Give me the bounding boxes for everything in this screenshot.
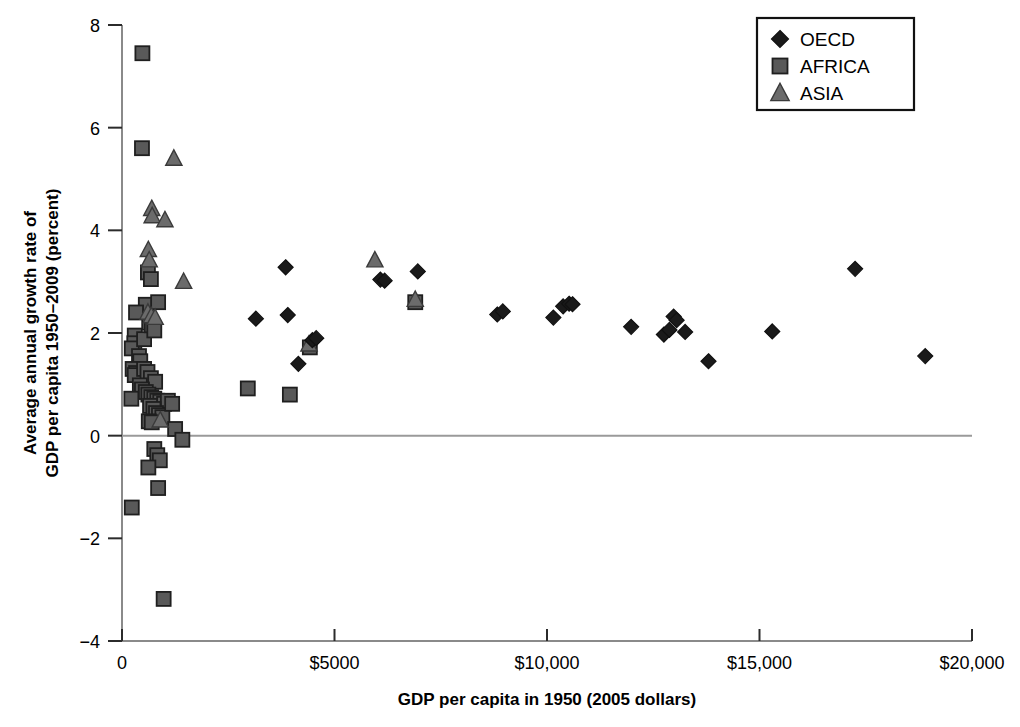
data-point-africa xyxy=(125,501,139,515)
axes-layer xyxy=(108,25,972,641)
data-point-oecd xyxy=(701,354,716,369)
y-axis-title-line1: Average annual growth rate of xyxy=(21,211,40,455)
y-tick-label: 4 xyxy=(90,221,100,241)
x-tick-label: $15,000 xyxy=(727,653,792,673)
legend-label: OECD xyxy=(800,29,855,50)
x-tick-label: $20,000 xyxy=(939,653,1004,673)
data-point-africa xyxy=(175,433,189,447)
x-tick-label: $5000 xyxy=(309,653,359,673)
data-point-oecd xyxy=(678,324,693,339)
data-point-africa xyxy=(135,46,149,60)
data-point-oecd xyxy=(291,356,306,371)
data-point-oecd xyxy=(248,311,263,326)
y-axis-title-line2: GDP per capita 1950–2009 (percent) xyxy=(43,189,62,478)
data-point-oecd xyxy=(765,324,780,339)
data-point-oecd xyxy=(546,310,561,325)
x-tick-label: $10,000 xyxy=(514,653,579,673)
data-point-africa xyxy=(241,381,255,395)
chart-canvas: −4−2024680$5000$10,000$15,000$20,000 GDP… xyxy=(0,0,1020,727)
data-point-oecd xyxy=(848,261,863,276)
legend-label: AFRICA xyxy=(800,56,870,77)
legend-label: ASIA xyxy=(800,83,844,104)
data-point-africa xyxy=(147,323,161,337)
y-tick-label: 8 xyxy=(90,16,100,36)
data-point-asia xyxy=(176,273,192,288)
data-point-africa xyxy=(157,592,171,606)
data-point-oecd xyxy=(280,308,295,323)
legend-box[interactable]: OECDAFRICAASIA xyxy=(757,18,914,110)
y-tick-label: 6 xyxy=(90,119,100,139)
data-point-africa xyxy=(141,460,155,474)
data-point-africa xyxy=(165,397,179,411)
y-tick-label: −4 xyxy=(79,632,100,652)
data-point-asia xyxy=(166,150,182,165)
data-points-layer xyxy=(124,46,932,606)
data-point-oecd xyxy=(410,264,425,279)
legend-item-asia[interactable]: ASIA xyxy=(771,83,844,104)
scatter-plot: −4−2024680$5000$10,000$15,000$20,000 GDP… xyxy=(0,0,1020,727)
y-tick-label: 0 xyxy=(90,427,100,447)
data-point-africa xyxy=(135,141,149,155)
y-tick-label: 2 xyxy=(90,324,100,344)
x-axis-title: GDP per capita in 1950 (2005 dollars) xyxy=(398,690,696,709)
data-point-africa xyxy=(151,295,165,309)
data-point-africa xyxy=(151,481,165,495)
data-point-oecd xyxy=(624,319,639,334)
series-asia xyxy=(140,150,424,427)
legend-item-africa[interactable]: AFRICA xyxy=(773,56,871,77)
y-tick-label: −2 xyxy=(79,529,100,549)
x-tick-label: 0 xyxy=(117,653,127,673)
legend-square-icon xyxy=(773,59,788,74)
data-point-africa xyxy=(144,272,158,286)
series-africa xyxy=(124,46,422,606)
data-point-africa xyxy=(124,392,138,406)
data-point-asia xyxy=(367,251,383,266)
data-point-africa xyxy=(283,388,297,402)
tick-labels-layer: −4−2024680$5000$10,000$15,000$20,000 xyxy=(79,16,1004,673)
data-point-oecd xyxy=(278,260,293,275)
series-oecd xyxy=(248,260,932,372)
data-point-oecd xyxy=(918,349,933,364)
